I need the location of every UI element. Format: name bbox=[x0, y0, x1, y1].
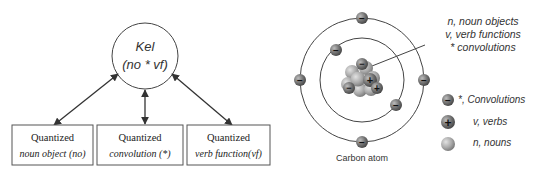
annotation-text: n, noun objects v, verb functions * conv… bbox=[445, 15, 521, 53]
neutron-ball-icon bbox=[441, 137, 455, 151]
arrow-noun bbox=[54, 74, 118, 125]
carbon-atom-diagram: − + + − − − − − − bbox=[294, 12, 525, 163]
svg-text:−: − bbox=[421, 75, 427, 86]
svg-text:−: − bbox=[393, 100, 399, 111]
legend-label: *, Convolutions bbox=[458, 94, 525, 105]
box-label: Quantized bbox=[118, 132, 162, 143]
legend-item-verbs: + v, verbs bbox=[441, 115, 507, 130]
svg-text:−: − bbox=[445, 95, 451, 106]
kel-node: Kel (no * vf) bbox=[112, 23, 178, 89]
electron: − bbox=[418, 74, 430, 86]
legend: − *, Convolutions + v, verbs n, nouns bbox=[441, 94, 525, 151]
kel-title: Kel bbox=[136, 39, 156, 54]
electron: − bbox=[356, 12, 368, 24]
box-noun-object: Quantized noun object (no) bbox=[12, 125, 93, 165]
box-label: Quantized bbox=[31, 132, 75, 143]
electron: − bbox=[356, 136, 368, 148]
atom-caption: Carbon atom bbox=[336, 153, 388, 163]
electron: − bbox=[330, 44, 342, 56]
legend-item-nouns: n, nouns bbox=[441, 137, 511, 151]
svg-text:+: + bbox=[367, 74, 373, 86]
svg-text:−: − bbox=[333, 45, 339, 56]
annotation-line: n, noun objects bbox=[447, 15, 519, 27]
electron: − bbox=[390, 99, 402, 111]
box-verb-function: Quantized verb function(vf) bbox=[187, 125, 270, 165]
figure: Kel (no * vf) Quantized noun object (no)… bbox=[0, 0, 537, 173]
box-sub: convolution (*) bbox=[109, 148, 171, 160]
electron-minus-icon: − bbox=[442, 94, 454, 106]
kel-formula: (no * vf) bbox=[122, 57, 168, 72]
svg-text:−: − bbox=[359, 137, 365, 148]
svg-text:−: − bbox=[297, 75, 303, 86]
annotation-line: * convolutions bbox=[450, 41, 516, 53]
proton-plus-icon: + bbox=[441, 115, 455, 130]
box-sub: noun object (no) bbox=[19, 148, 86, 160]
annotation-pointer bbox=[372, 45, 425, 66]
legend-label: n, nouns bbox=[473, 137, 511, 148]
legend-item-convolutions: − *, Convolutions bbox=[442, 94, 525, 106]
svg-text:+: + bbox=[444, 116, 451, 130]
annotation-line: v, verb functions bbox=[445, 28, 521, 40]
electron: − bbox=[294, 74, 306, 86]
kel-diagram: Kel (no * vf) Quantized noun object (no)… bbox=[12, 23, 270, 165]
box-label: Quantized bbox=[207, 132, 251, 143]
svg-text:−: − bbox=[346, 83, 351, 93]
legend-label: v, verbs bbox=[473, 116, 507, 127]
arrow-verb bbox=[172, 74, 232, 125]
box-sub: verb function(vf) bbox=[195, 148, 263, 160]
svg-text:−: − bbox=[359, 59, 364, 69]
svg-text:−: − bbox=[359, 13, 365, 24]
box-convolution: Quantized convolution (*) bbox=[97, 125, 183, 165]
svg-text:+: + bbox=[374, 83, 380, 94]
